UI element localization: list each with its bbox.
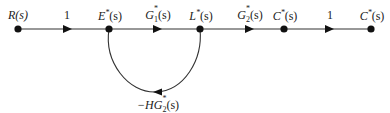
arrow-icon <box>325 25 334 33</box>
feedback-loop-curve <box>108 29 200 92</box>
branch-gain-e-l: G*1(s) <box>145 9 170 24</box>
node-r <box>14 25 21 32</box>
branch-gain-r-e: 1 <box>64 9 70 21</box>
node-c1 <box>280 25 287 32</box>
node-e <box>105 25 112 32</box>
branch-gain-l-c: G*2(s) <box>237 9 262 24</box>
arrow-icon <box>153 89 162 96</box>
node-label-l: L*(s) <box>189 9 212 22</box>
arrow-icon <box>153 25 162 33</box>
node-l <box>196 25 203 32</box>
node-c2 <box>367 25 374 32</box>
arrow-icon <box>63 25 72 33</box>
node-label-c1: C*(s) <box>273 9 298 22</box>
branch-gain-c-c: 1 <box>327 9 333 21</box>
node-label-e: E*(s) <box>98 9 122 22</box>
arrow-icon <box>245 25 254 33</box>
feedback-gain-label: −HG*2(s) <box>137 99 179 113</box>
node-label-c2: C*(s) <box>360 9 385 22</box>
node-label-r: R(s) <box>8 9 28 21</box>
